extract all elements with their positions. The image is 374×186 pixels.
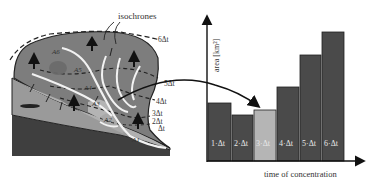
- y-axis-label: area [km²]: [212, 38, 221, 72]
- subarea-label-a3: A3: [91, 100, 100, 108]
- bar-2: [232, 115, 253, 161]
- bar-chart: 1·Δt 2·Δt 3·Δt 4·Δt 5·Δt 6·Δt area [km²]…: [207, 17, 363, 179]
- urban-area: [49, 61, 67, 75]
- catchment-illustration: A6 A5 A4 A3 A2 A1 isochrones 6Δt 5Δt 4Δt…: [10, 11, 176, 156]
- lake: [20, 104, 40, 108]
- bar-label-1: 1·Δt: [211, 139, 226, 148]
- bar-3-highlighted: [254, 110, 276, 161]
- subarea-label-a4: A4: [83, 84, 92, 92]
- bar-4: [277, 87, 299, 161]
- x-axis-label: time of concentration: [264, 169, 337, 179]
- bar-label-2: 2·Δt: [234, 139, 249, 148]
- isochrone-label-6: 6Δt: [158, 35, 170, 44]
- bar-label-4: 4·Δt: [279, 139, 294, 148]
- isochrone-label-4: 4Δt: [156, 97, 168, 106]
- bar-1: [208, 103, 231, 161]
- isochrone-label-1: Δt: [158, 124, 166, 133]
- isochrones-label: isochrones: [118, 11, 157, 21]
- bar-label-6: 6·Δt: [324, 139, 339, 148]
- subarea-label-a6: A6: [51, 48, 60, 56]
- bar-label-5: 5·Δt: [302, 139, 317, 148]
- subarea-label-a2: A2: [103, 116, 112, 124]
- bar-label-3: 3·Δt: [256, 139, 271, 148]
- subarea-label-a5: A5: [73, 66, 82, 74]
- subarea-label-a1: A1: [131, 136, 140, 144]
- isochrone-diagram: A6 A5 A4 A3 A2 A1 isochrones 6Δt 5Δt 4Δt…: [0, 0, 374, 186]
